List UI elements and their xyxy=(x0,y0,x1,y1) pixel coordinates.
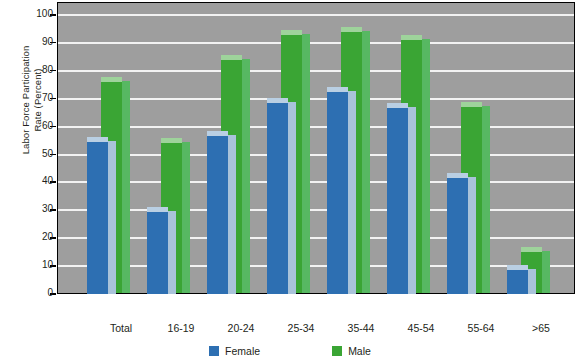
bar-male-top xyxy=(281,30,302,35)
bar-male-top xyxy=(341,27,362,32)
bar-female-face xyxy=(87,141,108,294)
bar-group xyxy=(447,2,507,294)
y-axis-tick-label: 30 xyxy=(29,203,53,214)
y-axis-tick-label: 70 xyxy=(29,92,53,103)
bar-female-top xyxy=(267,98,288,103)
bar-female[interactable] xyxy=(507,269,528,294)
bar-female-side xyxy=(288,102,296,294)
bar-male-side xyxy=(182,142,190,293)
y-axis-tick-label: 100 xyxy=(29,8,53,19)
bar-group xyxy=(147,2,207,294)
bar-male-side xyxy=(302,34,310,293)
bar-female-face xyxy=(267,102,288,294)
bar-female-top xyxy=(207,131,228,136)
x-axis-tick-label: >65 xyxy=(506,322,576,334)
y-axis-tick-label: 40 xyxy=(29,175,53,186)
bar-female-top xyxy=(147,207,168,212)
bar-female[interactable] xyxy=(87,141,108,294)
bar-female-side xyxy=(228,135,236,294)
bar-male-side xyxy=(482,106,490,293)
bar-female-top xyxy=(387,103,408,108)
bar-male-top xyxy=(101,77,122,82)
bar-male-side xyxy=(362,31,370,293)
y-axis-tick-label: 80 xyxy=(29,64,53,75)
bar-male-top xyxy=(521,247,542,252)
y-axis-tick-label: 20 xyxy=(29,231,53,242)
bar-female-side xyxy=(528,269,536,294)
bar-chart: Labor Force Participation Rate (Percent)… xyxy=(0,0,580,363)
y-axis-tick-label: 50 xyxy=(29,148,53,159)
bar-group xyxy=(267,2,327,294)
y-axis-tick-label: 0 xyxy=(29,287,53,298)
bar-male-top xyxy=(221,55,242,60)
y-axis-tick-label: 60 xyxy=(29,120,53,131)
bar-female-face xyxy=(327,91,348,294)
legend-item-male[interactable]: Male xyxy=(332,345,371,357)
bar-male-side xyxy=(242,59,250,293)
bar-female-top xyxy=(507,265,528,270)
legend-item-female[interactable]: Female xyxy=(209,345,260,357)
bar-female-face xyxy=(207,135,228,294)
bar-group xyxy=(327,2,387,294)
bar-male-side xyxy=(542,251,550,293)
bar-female-top xyxy=(327,87,348,92)
y-axis-tick-label: 10 xyxy=(29,259,53,270)
chart-legend: FemaleMale xyxy=(0,345,580,357)
bar-female[interactable] xyxy=(447,177,468,294)
bar-female-face xyxy=(507,269,528,294)
bar-female-side xyxy=(408,107,416,294)
bar-female-side xyxy=(168,211,176,294)
legend-swatch-male xyxy=(332,346,342,356)
bar-group xyxy=(507,2,567,294)
bar-group xyxy=(387,2,447,294)
bar-female[interactable] xyxy=(387,107,408,294)
bar-group xyxy=(207,2,267,294)
bar-male-side xyxy=(422,39,430,293)
bar-group xyxy=(87,2,147,294)
bars-layer xyxy=(57,2,575,294)
bar-male-top xyxy=(401,35,422,40)
bar-female-side xyxy=(348,91,356,294)
bar-female[interactable] xyxy=(207,135,228,294)
bar-female-face xyxy=(447,177,468,294)
legend-swatch-female xyxy=(209,346,219,356)
bar-female-face xyxy=(387,107,408,294)
bar-female-side xyxy=(468,177,476,294)
bar-female[interactable] xyxy=(147,211,168,294)
bar-female[interactable] xyxy=(327,91,348,294)
legend-label: Male xyxy=(348,345,371,357)
bar-male-side xyxy=(122,81,130,293)
bar-male-top xyxy=(161,138,182,143)
y-axis-tick-label: 90 xyxy=(29,36,53,47)
bar-female-face xyxy=(147,211,168,294)
bar-female[interactable] xyxy=(267,102,288,294)
legend-label: Female xyxy=(225,345,260,357)
bar-female-side xyxy=(108,141,116,294)
bar-female-top xyxy=(87,137,108,142)
bar-male-top xyxy=(461,102,482,107)
bar-female-top xyxy=(447,173,468,178)
